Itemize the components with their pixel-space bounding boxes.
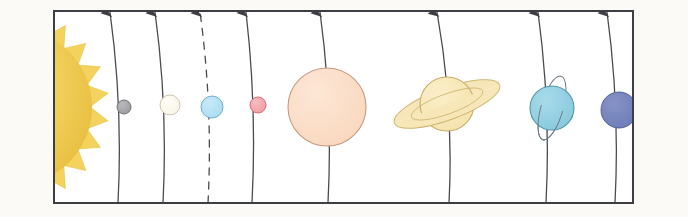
solar-system-figure [0, 0, 688, 217]
diagram-canvas [0, 0, 688, 217]
paper-texture [0, 0, 688, 217]
